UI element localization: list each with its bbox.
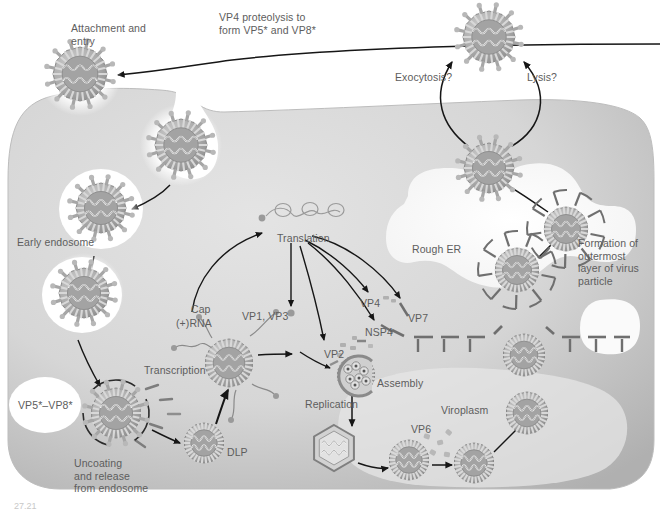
label-vp4: VP4: [360, 297, 380, 310]
label-early-endosome: Early endosome: [17, 236, 94, 249]
label-cap: Cap: [191, 303, 211, 316]
label-vp2: VP2: [324, 348, 344, 361]
figure-canvas: Attachment and entryVP4 proteolysis to f…: [0, 0, 662, 519]
label-exocytosis: Exocytosis?: [395, 71, 452, 84]
label-uncoating-and-release: Uncoating and release from endosome: [74, 457, 148, 495]
label-transcription: Transcription: [144, 364, 206, 377]
label-replication: Replication: [305, 398, 358, 411]
assembly-intermediate: [337, 356, 374, 396]
dlp-viroplasm-right: [455, 443, 494, 483]
label-attachment-and-entry: Attachment and entry: [71, 22, 146, 47]
label-vp7: VP7: [408, 312, 428, 325]
figure-caption: 27.21: [14, 501, 37, 511]
virion-early-endosome-lower: [44, 253, 124, 333]
label-vp1-vp3: VP1, VP3: [242, 310, 288, 323]
label-lysis: Lysis?: [527, 71, 557, 84]
label-formation-outermost-layer: Formation of outermost layer of virus pa…: [578, 237, 639, 287]
label-vp4-proteolysis: VP4 proteolysis to form VP5* and VP8*: [219, 11, 316, 36]
label-dlp: DLP: [227, 446, 248, 459]
dlp-transcribing: [206, 339, 253, 387]
virion-released: [454, 2, 524, 72]
label-vp5-vp8: VP5*–VP8*: [18, 399, 73, 412]
label-nsp4: NSP4: [365, 326, 393, 339]
dlp-viroplasm-left: [390, 440, 429, 480]
label-translation: Translation: [277, 232, 330, 245]
virion-endocytic-pit: [140, 104, 222, 186]
virion-mature-intracellular: [455, 134, 523, 202]
label-assembly: Assembly: [377, 377, 423, 390]
dlp-budding-er: [504, 334, 545, 376]
label-rough-er: Rough ER: [412, 243, 461, 256]
label-viroplasm: Viroplasm: [441, 404, 488, 417]
diagram-scene: [0, 0, 662, 519]
label-plus-rna: (+)RNA: [176, 317, 212, 330]
label-vp6: VP6: [411, 423, 431, 436]
core-replication: [314, 425, 354, 471]
vp1-vp3-protein-dot: [287, 309, 294, 316]
dlp-viroplasm-upper: [507, 392, 548, 434]
dlp-particle: [185, 423, 224, 463]
